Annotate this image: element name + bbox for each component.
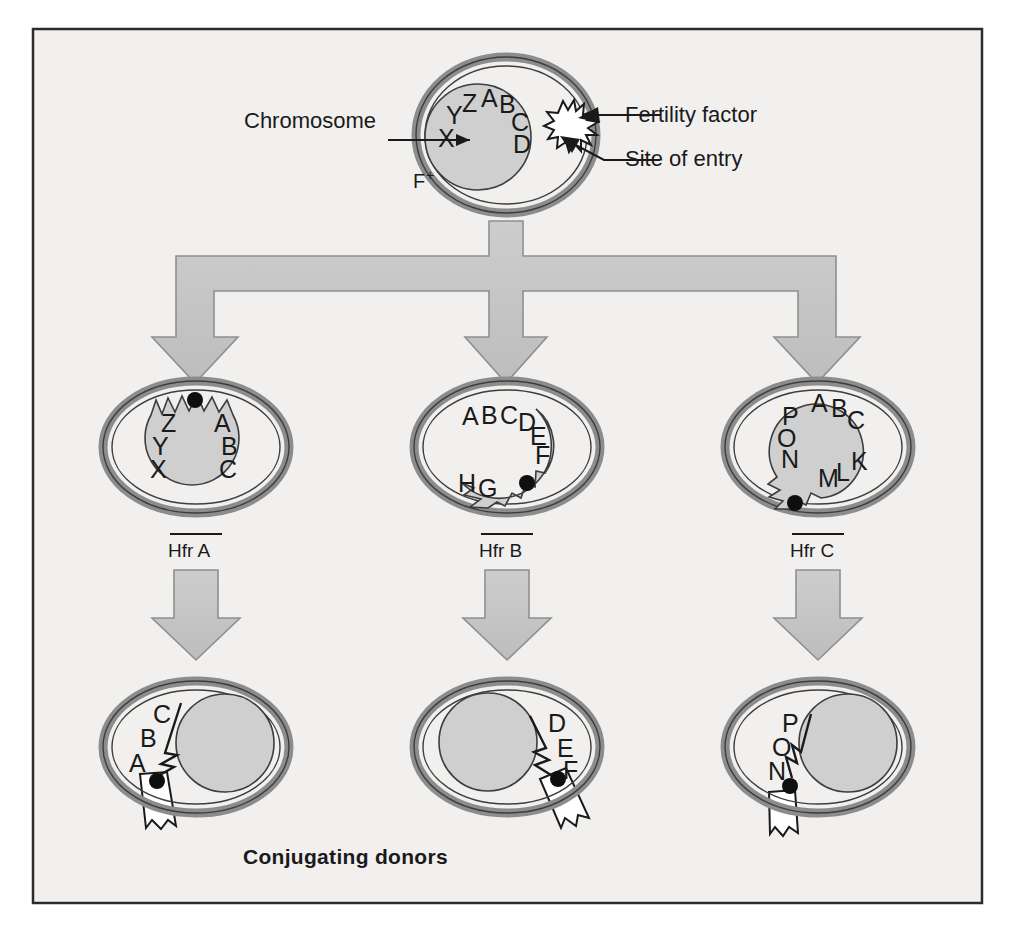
hfr-a-gene-X: X [150, 455, 167, 483]
donor-1-chromosome [176, 694, 274, 792]
origin-dot-icon-donor-1 [149, 773, 165, 789]
chromosome-label: Chromosome [244, 108, 376, 133]
site-of-entry-label: Site of entry [625, 146, 742, 171]
fertility-factor-label: Fertility factor [625, 102, 757, 127]
donor-2-chromosome [439, 693, 537, 791]
gene-letter-D: D [513, 130, 531, 158]
donor-2-gene-F: F [563, 756, 578, 784]
hfr-c-gene-N: N [781, 445, 799, 473]
figure-root: X Y Z A B C D Chromosome F + Fertility f… [0, 0, 1014, 930]
parent-strain-label: F [413, 170, 425, 192]
donor-3-gene-N: N [768, 757, 786, 785]
origin-dot-icon-hfr-a [187, 392, 203, 408]
hfr-b-gene-H: H [458, 469, 476, 497]
hfr-c-gene-A: A [811, 389, 828, 417]
figure-caption: Conjugating donors [243, 845, 448, 868]
hfr-b-gene-G: G [478, 474, 497, 502]
hfr-b-gene-A: A [462, 402, 479, 430]
bacterial-conjugation-diagram: X Y Z A B C D Chromosome F + Fertility f… [0, 0, 1014, 930]
donor-3-chromosome [799, 694, 897, 792]
hfr-c-gene-C: C [847, 406, 865, 434]
hfr-b-label: Hfr B [479, 540, 522, 561]
hfr-c-gene-K: K [851, 447, 868, 475]
gene-letter-A: A [481, 84, 498, 112]
hfr-b-gene-B: B [481, 401, 498, 429]
hfr-b-gene-C: C [500, 401, 518, 429]
hfr-b-gene-F: F [535, 441, 550, 469]
origin-dot-icon-hfr-c [787, 495, 803, 511]
origin-dot-icon-hfr-b [519, 475, 535, 491]
donor-2-gene-D: D [548, 709, 566, 737]
hfr-a-label: Hfr A [168, 540, 211, 561]
hfr-c-gene-L: L [836, 458, 850, 486]
donor-1-gene-B: B [140, 724, 157, 752]
hfr-c-label: Hfr C [790, 540, 834, 561]
gene-letter-Y: Y [446, 101, 463, 129]
gene-letter-Z: Z [462, 89, 477, 117]
hfr-a-gene-C: C [219, 455, 237, 483]
donor-1-gene-A: A [129, 749, 146, 777]
parent-strain-superscript: + [426, 167, 434, 183]
hfr-c-gene-B: B [831, 394, 848, 422]
